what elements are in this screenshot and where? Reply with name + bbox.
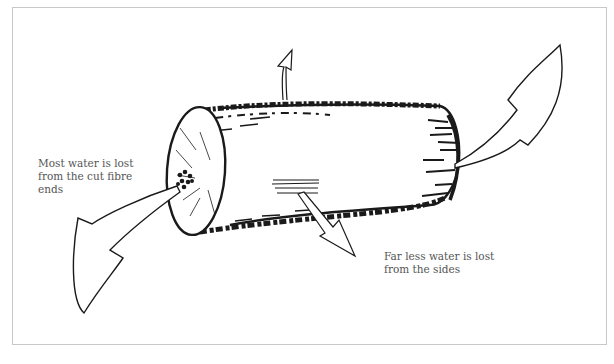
large-arrow-left-end-icon [73,186,180,313]
label-sides: Far less water is lost from the sides [384,250,504,276]
small-arrow-bottom-side-icon [298,192,355,256]
log-body [200,104,460,232]
log-cut-end [163,105,230,237]
label-cut-fibre-ends: Most water is lost from the cut fibre en… [38,157,148,196]
large-arrow-right-end-icon [455,45,562,168]
small-arrow-top-side-icon [278,50,292,100]
